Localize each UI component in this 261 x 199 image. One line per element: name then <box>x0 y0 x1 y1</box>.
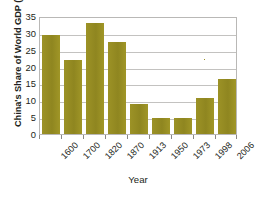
y-tick-label: 15 <box>18 79 36 89</box>
x-tick <box>105 135 106 139</box>
bar-chart-figure: China's Share of World GDP (%) 051015202… <box>0 0 261 199</box>
x-tick-label: 1870 <box>124 140 145 161</box>
bar <box>130 104 148 134</box>
x-tick-label: 1600 <box>58 140 79 161</box>
bar <box>174 118 192 134</box>
bar <box>108 42 126 134</box>
print-speck <box>204 59 205 60</box>
bar <box>152 118 170 134</box>
x-tick-label: 1973 <box>190 140 211 161</box>
x-tick-label: 1700 <box>80 140 101 161</box>
y-tick-label: 10 <box>18 96 36 106</box>
x-tick <box>149 135 150 139</box>
y-axis-tick-labels: 05101520253035 <box>18 12 36 140</box>
plot-area <box>39 17 237 135</box>
bar <box>218 79 236 134</box>
bar <box>196 98 214 134</box>
y-tick-label: 0 <box>18 130 36 140</box>
x-tick <box>215 135 216 139</box>
y-tick-label: 5 <box>18 113 36 123</box>
x-tick <box>236 135 237 139</box>
x-tick <box>39 135 40 139</box>
y-tick-label: 30 <box>18 29 36 39</box>
x-axis-tick-labels: 160017001820187019131950197319982006 <box>39 140 237 170</box>
x-tick-label: 2006 <box>234 140 255 161</box>
bars-group <box>40 18 236 134</box>
x-tick-label: 1913 <box>146 140 167 161</box>
x-tick <box>61 135 62 139</box>
x-tick <box>193 135 194 139</box>
x-tick-label: 1950 <box>168 140 189 161</box>
x-tick-label: 1820 <box>102 140 123 161</box>
y-tick-label: 25 <box>18 46 36 56</box>
y-tick-label: 20 <box>18 63 36 73</box>
x-tick <box>171 135 172 139</box>
bar <box>42 35 60 134</box>
bar <box>86 23 104 134</box>
x-tick <box>83 135 84 139</box>
x-axis-title: Year <box>39 174 237 185</box>
x-tick <box>127 135 128 139</box>
bar <box>64 60 82 134</box>
x-tick-label: 1998 <box>212 140 233 161</box>
y-tick-label: 35 <box>18 12 36 22</box>
